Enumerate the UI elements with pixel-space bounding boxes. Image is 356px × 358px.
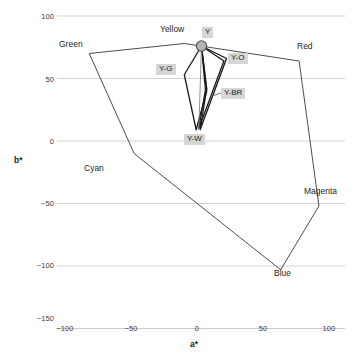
caption-clipped [0, 350, 356, 358]
gamut-label-cyan: Cyan [84, 163, 104, 173]
sample-label-y-g: Y-G [156, 64, 176, 75]
y-axis-title: b* [14, 155, 23, 165]
gamut-label-red: Red [297, 41, 313, 51]
gamut-label-blue: Blue [274, 268, 291, 278]
sample-label-y-w: Y-W [184, 134, 205, 145]
y-tick-label-0: 0 [26, 137, 54, 146]
gamut-label-magenta: Magenta [304, 186, 337, 196]
chromaticity-figure: 100 50 0 −50 −100 −150 −100 −50 0 50 100… [0, 0, 356, 358]
y-tick-label-100: 100 [26, 12, 54, 21]
y-tick-label-neg100: −100 [22, 261, 54, 270]
y-tick-label-50: 50 [26, 75, 54, 84]
sample-label-y-o: Y-O [228, 53, 248, 64]
data-series-group [89, 44, 319, 270]
y-tick-label-neg50: −50 [22, 199, 54, 208]
plot-canvas [0, 0, 356, 358]
gamut-label-yellow: Yellow [160, 24, 184, 34]
sample-label-y: Y [202, 27, 213, 38]
x-tick-label-100: 100 [312, 324, 346, 333]
x-tick-label-0: 0 [180, 324, 214, 333]
sample-label-y-br: Y-BR [221, 88, 245, 99]
x-tick-label-neg100: −100 [48, 324, 82, 333]
data-marker-y [196, 41, 206, 51]
x-axis-title: a* [190, 339, 198, 349]
y-tick-label-neg150: −150 [22, 314, 54, 323]
gamut-label-green: Green [59, 39, 83, 49]
x-tick-label-neg50: −50 [114, 324, 148, 333]
x-tick-label-50: 50 [246, 324, 280, 333]
